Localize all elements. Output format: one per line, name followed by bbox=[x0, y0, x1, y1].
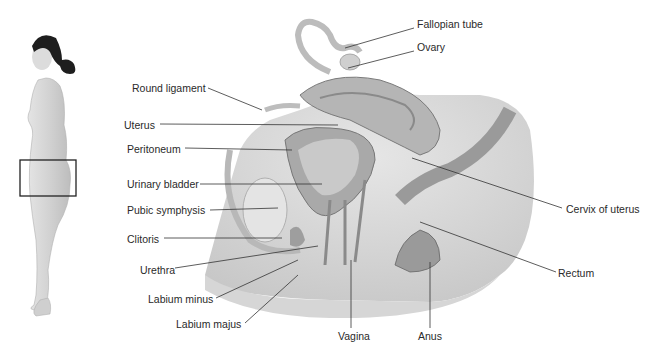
locator-figure bbox=[20, 35, 76, 316]
label-ovary: Ovary bbox=[417, 41, 445, 53]
pelvic-section bbox=[205, 22, 534, 318]
label-vagina: Vagina bbox=[338, 330, 370, 342]
anatomy-diagram bbox=[0, 0, 658, 358]
label-cervix-of-uterus: Cervix of uterus bbox=[566, 203, 640, 215]
round-ligament-shape bbox=[265, 106, 300, 111]
label-urethra: Urethra bbox=[140, 264, 175, 276]
label-fallopian-tube: Fallopian tube bbox=[417, 18, 483, 30]
label-peritoneum: Peritoneum bbox=[127, 143, 181, 155]
label-clitoris: Clitoris bbox=[127, 233, 159, 245]
pubic-symphysis-shape bbox=[243, 178, 287, 242]
label-pubic-symphysis: Pubic symphysis bbox=[127, 204, 205, 216]
label-urinary-bladder: Urinary bladder bbox=[127, 178, 199, 190]
label-labium-majus: Labium majus bbox=[176, 318, 241, 330]
label-labium-minus: Labium minus bbox=[148, 293, 213, 305]
label-anus: Anus bbox=[418, 330, 442, 342]
body bbox=[28, 78, 71, 310]
label-rectum: Rectum bbox=[558, 267, 594, 279]
label-round-ligament: Round ligament bbox=[132, 82, 206, 94]
label-uterus: Uterus bbox=[124, 119, 155, 131]
